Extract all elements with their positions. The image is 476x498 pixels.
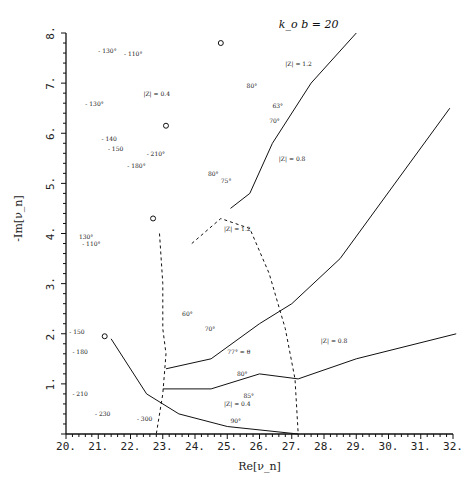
x-tick-label: 30. xyxy=(379,440,399,453)
annotation: |Z| = 0.4 xyxy=(143,90,170,98)
pole-marker xyxy=(218,41,223,46)
pole-marker xyxy=(151,216,156,221)
annotation: - 110° xyxy=(124,50,142,57)
x-tick-label: 24. xyxy=(185,440,205,453)
annotation: 130° xyxy=(79,233,93,240)
annotation: 70° xyxy=(269,117,280,124)
x-tick-label: 32. xyxy=(443,440,463,453)
annotation: 77° = θ xyxy=(227,348,250,355)
annotation: - 210° xyxy=(147,150,165,157)
annotation: |Z| = 1.2 xyxy=(285,60,312,68)
x-tick-label: 21. xyxy=(88,440,108,453)
x-tick-label: 28. xyxy=(314,440,334,453)
axes xyxy=(61,33,453,439)
annotation: 60° xyxy=(182,310,193,317)
y-tick-label: 1. xyxy=(44,377,57,390)
annotation: - 130° xyxy=(98,47,116,54)
series-curve xyxy=(156,234,166,435)
x-tick-label: 27. xyxy=(282,440,302,453)
annotation: 90° xyxy=(230,417,241,424)
annotation: - 180° xyxy=(127,162,145,169)
annotation: - 230 xyxy=(95,410,111,417)
annotation: 80° xyxy=(208,170,219,177)
annotation: - 210 xyxy=(72,390,88,397)
annotation: 70° xyxy=(205,325,216,332)
annotation: - 180 xyxy=(72,348,88,355)
x-tick-label: 31. xyxy=(411,440,431,453)
chart-figure: 20.21.22.23.24.25.26.27.28.29.30.31.32.1… xyxy=(0,0,476,498)
annotation: |Z| = 0.8 xyxy=(321,337,348,345)
y-tick-label: 8. xyxy=(44,26,57,39)
labels-layer: 20.21.22.23.24.25.26.27.28.29.30.31.32.1… xyxy=(12,18,463,473)
y-tick-label: 6. xyxy=(44,127,57,140)
annotation: 80° xyxy=(247,82,258,89)
y-tick-label: 4. xyxy=(44,227,57,240)
x-tick-label: 23. xyxy=(153,440,173,453)
annotation: |Z| = 0.4 xyxy=(224,400,251,408)
y-axis-title: -Im[ν_n] xyxy=(12,195,25,241)
x-tick-label: 20. xyxy=(56,440,76,453)
annotation: - 150 xyxy=(69,328,85,335)
y-tick-label: 2. xyxy=(44,327,57,340)
annotation: - 110° xyxy=(82,240,100,247)
y-tick-label: 3. xyxy=(44,277,57,290)
annotation: 80° xyxy=(237,370,248,377)
pole-marker xyxy=(163,123,168,128)
annotation: |Z| = 0.8 xyxy=(279,155,306,163)
x-tick-label: 22. xyxy=(121,440,141,453)
y-tick-label: 7. xyxy=(44,77,57,90)
annotation: - 150 xyxy=(108,145,124,152)
x-tick-label: 25. xyxy=(217,440,237,453)
annotation: k_o b = 20 xyxy=(279,18,339,31)
annotation: - 130° xyxy=(85,100,103,107)
pole-marker xyxy=(102,334,107,339)
annotation: - 140 xyxy=(101,135,117,142)
x-axis-title: Re[ν_n] xyxy=(238,460,281,473)
annotation: 75° xyxy=(221,177,232,184)
annotation: - 300 xyxy=(137,415,153,422)
annotation: 63° xyxy=(272,102,283,109)
annotation: |Z| = 1.2 xyxy=(224,225,251,233)
y-tick-label: 5. xyxy=(44,177,57,190)
series-curve xyxy=(163,334,456,389)
x-tick-label: 29. xyxy=(346,440,366,453)
annotation: 85° xyxy=(243,392,254,399)
x-tick-label: 26. xyxy=(250,440,270,453)
